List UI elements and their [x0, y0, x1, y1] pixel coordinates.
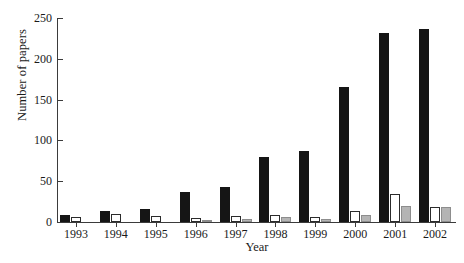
bar-black-1994 [100, 211, 110, 222]
bar-black-1995 [140, 209, 150, 222]
y-tick-label-wrap: 100 [0, 134, 52, 146]
bar-white-1999 [310, 217, 320, 222]
x-tick-label: 1998 [253, 227, 297, 241]
bar-chart: Number of papers 050100150200250 1993199… [0, 0, 464, 263]
y-axis-label: Number of papers [14, 0, 30, 175]
bar-black-1993 [60, 215, 70, 222]
x-tick-label: 1996 [174, 227, 218, 241]
bar-gray-2000 [361, 215, 371, 222]
bar-white-1997 [231, 216, 241, 222]
bar-black-1996 [180, 192, 190, 222]
bar-white-1994 [111, 214, 121, 222]
bar-black-2001 [379, 33, 389, 222]
y-tick-label: 100 [6, 134, 52, 146]
y-tick-label-wrap: 0 [0, 216, 52, 228]
x-tick-label: 1993 [54, 227, 98, 241]
y-tick-mark [58, 59, 63, 60]
bar-group [220, 18, 252, 222]
y-tick-label-wrap: 150 [0, 94, 52, 106]
y-tick-mark [58, 100, 63, 101]
x-tick-label: 1995 [134, 227, 178, 241]
bar-black-2000 [339, 87, 349, 222]
y-tick-label-wrap: 200 [0, 53, 52, 65]
x-tick-label: 1994 [94, 227, 138, 241]
x-tick-label: 1999 [293, 227, 337, 241]
bar-black-1999 [299, 151, 309, 222]
plot-area [57, 18, 456, 222]
bar-white-2000 [350, 211, 360, 222]
bar-black-2002 [419, 29, 429, 222]
x-axis-line [57, 222, 456, 223]
x-tick-label: 2000 [333, 227, 377, 241]
bar-gray-2002 [441, 207, 451, 222]
bar-group [259, 18, 291, 222]
x-tick-label: 1997 [214, 227, 258, 241]
bar-gray-1997 [242, 219, 252, 222]
bar-gray-2001 [401, 206, 411, 222]
bar-black-1998 [259, 157, 269, 222]
bar-white-2002 [430, 207, 440, 223]
y-tick-label-wrap: 250 [0, 12, 52, 24]
bar-group [339, 18, 371, 222]
bar-white-1996 [191, 218, 201, 222]
x-tick-label: 2002 [413, 227, 457, 241]
y-tick-label: 200 [6, 53, 52, 65]
y-tick-label-wrap: 50 [0, 175, 52, 187]
y-tick-label: 50 [6, 175, 52, 187]
bar-white-1998 [270, 215, 280, 222]
y-tick-mark [58, 18, 63, 19]
x-tick-label: 2001 [373, 227, 417, 241]
bar-black-1997 [220, 187, 230, 222]
y-tick-label: 150 [6, 94, 52, 106]
y-tick-label: 250 [6, 12, 52, 24]
bar-group [379, 18, 411, 222]
bar-gray-1999 [321, 219, 331, 222]
bar-group [299, 18, 331, 222]
bar-gray-1996 [202, 220, 212, 222]
bar-gray-1998 [281, 217, 291, 222]
bar-white-1995 [151, 216, 161, 222]
y-tick-mark [58, 140, 63, 141]
x-axis-label: Year [57, 240, 457, 254]
y-tick-mark [58, 181, 63, 182]
bar-white-2001 [390, 194, 400, 222]
bar-group [180, 18, 212, 222]
y-tick-mark [58, 222, 63, 223]
bar-group [100, 18, 132, 222]
bar-group [419, 18, 451, 222]
bar-group [140, 18, 172, 222]
bar-white-1993 [71, 217, 81, 222]
y-tick-label: 0 [6, 216, 52, 228]
bar-group [60, 18, 92, 222]
